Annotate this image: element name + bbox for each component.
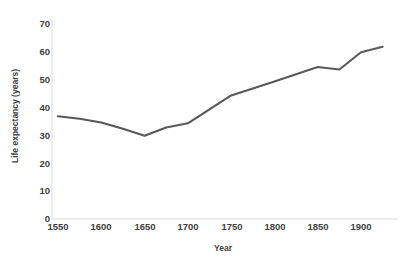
plot-area [0,0,412,278]
line-chart: Life expectancy (years) 70 60 50 40 30 2… [0,0,412,278]
data-series-line [58,47,383,136]
